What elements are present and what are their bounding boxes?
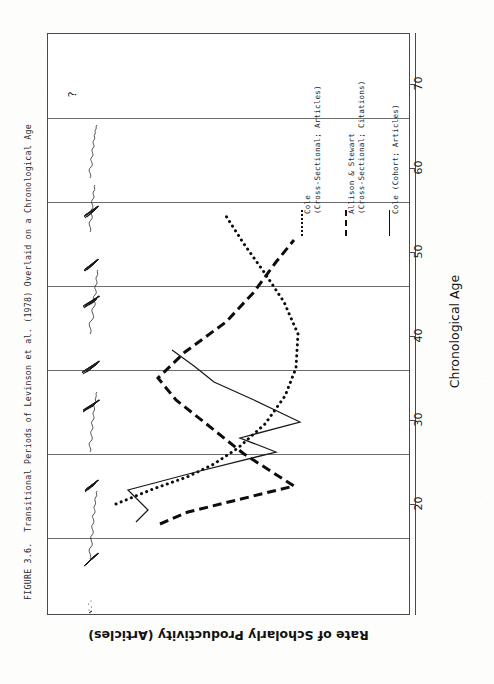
tick-label-70: 70 bbox=[412, 65, 425, 91]
legend-swatch-dotted bbox=[301, 210, 303, 236]
series-allison-stewart-citations bbox=[158, 240, 294, 524]
legend-label-allison-stewart: Allison & Stewart bbox=[347, 133, 357, 214]
gridline-age-30 bbox=[48, 454, 409, 455]
tick-label-60: 60 bbox=[412, 149, 425, 175]
series-cole-cross-sectional-articles bbox=[116, 216, 298, 504]
legend-swatch-dashed bbox=[345, 210, 347, 236]
legend-label-cole-cross-sectional-detail: (Cross-Sectional; Articles) bbox=[313, 85, 323, 214]
transitional-period-waveforms bbox=[65, 34, 115, 614]
x-axis: 70 60 50 40 30 20 Chronological Age bbox=[410, 33, 494, 615]
uncertainty-annotation: ? bbox=[66, 91, 79, 98]
tick-label-20: 20 bbox=[412, 485, 425, 511]
figure-caption: FIGURE 3.6. Transitional Periods of Levi… bbox=[0, 0, 46, 600]
gridline-age-20 bbox=[48, 538, 409, 539]
legend-swatch-solid bbox=[389, 210, 390, 236]
legend-entry-cole-cross-sectional: Cole (Cross-Sectional; Articles) bbox=[291, 46, 339, 214]
x-axis-title: Chronological Age bbox=[447, 275, 462, 388]
series-cole-cohort-articles bbox=[128, 350, 300, 522]
tick-label-40: 40 bbox=[412, 317, 425, 343]
caption-line-1: FIGURE 3.6. Transitional Periods of Levi… bbox=[23, 0, 35, 600]
legend-label-cole-cross-sectional: Cole bbox=[303, 195, 313, 214]
waveform-svg bbox=[65, 34, 115, 616]
tick-label-30: 30 bbox=[412, 401, 425, 427]
legend-label-allison-stewart-detail: (Cross-Sectional; Citations) bbox=[357, 80, 367, 214]
plot-area: ? Cole (Cross-Sectional; Articles) Allis… bbox=[47, 33, 410, 615]
tick-label-50: 50 bbox=[412, 233, 425, 259]
legend-entry-allison-stewart: Allison & Stewart (Cross-Sectional; Cita… bbox=[335, 46, 383, 214]
gridline-age-40 bbox=[48, 370, 409, 371]
gridline-age-50 bbox=[48, 286, 409, 287]
legend-label-cole-cohort: Cole (Cohort; Articles) bbox=[391, 104, 401, 214]
y-axis-title: Rate of Scholarly Productivity (Articles… bbox=[47, 628, 410, 643]
